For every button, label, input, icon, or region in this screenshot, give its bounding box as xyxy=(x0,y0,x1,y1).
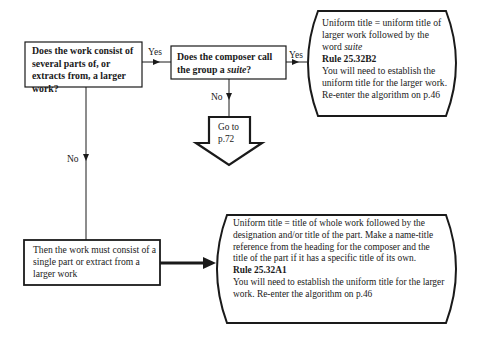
arrowhead-q1-q2-icon xyxy=(153,59,160,65)
suite-desc-italic: suite xyxy=(344,41,362,52)
q2-question: Does the composer call the group a suite… xyxy=(177,51,285,76)
suite-desc-before: Uniform title = uniform title of larger … xyxy=(322,17,441,52)
q2-text-after: ? xyxy=(246,64,251,75)
edge-label-no: No xyxy=(211,92,223,102)
arrowhead-single-result-icon xyxy=(203,257,216,269)
edge-label-yes: Yes xyxy=(289,50,303,60)
goto-text: Go to p.72 xyxy=(218,121,250,145)
single-part-statement: Then the work must consist of a single p… xyxy=(33,244,158,280)
q2-text-italic: suite xyxy=(227,64,246,75)
part-outcome-instruction: You will need to establish the uniform t… xyxy=(233,277,445,301)
suite-outcome-rule: Rule 25.32B2 xyxy=(322,53,450,65)
arrowhead-q1-single-icon xyxy=(83,154,89,161)
goto-line2: p.72 xyxy=(218,133,250,145)
suite-outcome-text: Uniform title = uniform title of larger … xyxy=(322,17,450,101)
q2-text-before: Does the composer call the group a xyxy=(177,51,272,75)
suite-outcome-instruction: You will need to establish the uniform t… xyxy=(322,65,450,101)
goto-line1: Go to xyxy=(218,121,250,133)
suite-outcome-description: Uniform title = uniform title of larger … xyxy=(322,17,450,53)
edge-label-yes: Yes xyxy=(148,47,162,57)
part-outcome-rule: Rule 25.32A1 xyxy=(233,265,445,277)
edge-label-no: No xyxy=(67,154,79,164)
part-outcome-description: Uniform title = title of whole work foll… xyxy=(233,218,445,265)
arrowhead-q2-goto-icon xyxy=(226,93,232,100)
part-outcome-text: Uniform title = title of whole work foll… xyxy=(233,218,445,301)
q1-question: Does the work consist of several parts o… xyxy=(32,45,140,95)
